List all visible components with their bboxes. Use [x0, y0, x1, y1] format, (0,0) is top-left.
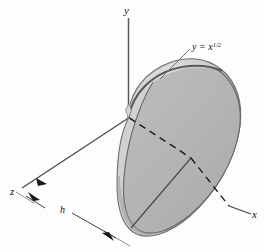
- x-axis-label: x: [251, 208, 257, 220]
- z-axis-arrow: [36, 178, 47, 186]
- solid-of-revolution: [117, 59, 241, 236]
- dimension-arrow-start: [28, 192, 40, 201]
- dimension-arrow-end: [102, 232, 114, 241]
- z-axis-label: z: [9, 185, 15, 197]
- x-axis-line: [229, 206, 251, 214]
- figure-container: y x z h y = x1/2: [0, 0, 265, 252]
- curve-equation-label: y = x1/2: [191, 41, 222, 53]
- height-dimension: [16, 178, 130, 246]
- solid-of-revolution-figure: y x z h y = x1/2: [0, 0, 265, 252]
- height-dimension-label: h: [60, 204, 65, 215]
- curve-equation-exponent: 1/2: [213, 41, 222, 48]
- y-axis-label: y: [123, 4, 129, 16]
- curve-equation-base: y = x: [191, 41, 213, 52]
- axis-lines: [22, 18, 129, 188]
- z-axis-line: [22, 118, 129, 188]
